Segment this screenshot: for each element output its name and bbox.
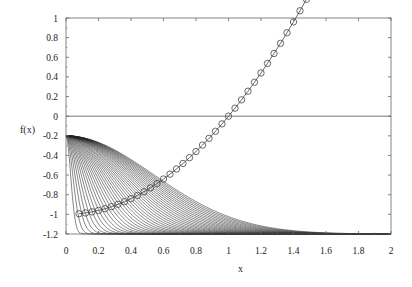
y-tick-label: -0.4 [43, 151, 58, 161]
x-tick-label: 1 [226, 246, 231, 256]
y-tick-label: 0.4 [46, 72, 58, 82]
x-tick-label: 0.4 [125, 246, 137, 256]
chart: 00.20.40.60.811.21.41.61.82 10.80.60.40.… [0, 0, 412, 287]
x-tick-label: 1.8 [353, 246, 365, 256]
x-tick-label: 0.8 [190, 246, 202, 256]
y-tick-label: -1 [50, 210, 58, 220]
x-tick-label: 1.6 [320, 246, 332, 256]
y-tick-label: -0.2 [43, 131, 58, 141]
y-tick-label: 0.8 [46, 33, 58, 43]
circle-marker [303, 0, 309, 3]
y-tick-label: 0.2 [46, 92, 58, 102]
x-axis-label: x [238, 263, 243, 274]
y-tick-label: -0.8 [43, 190, 58, 200]
y-tick-label: -0.6 [43, 171, 58, 181]
plot-frame [66, 18, 391, 234]
x-tick-label: 0.6 [158, 246, 170, 256]
x-tick-label: 2 [389, 246, 394, 256]
y-tick-label: 0.6 [46, 53, 58, 63]
curve-family [66, 136, 391, 234]
x-tick-label: 0 [64, 246, 69, 256]
x-tick-label: 1.4 [288, 246, 300, 256]
y-axis-ticks: 10.80.60.40.20-0.2-0.4-0.6-0.8-1-1.2 [43, 14, 391, 240]
y-tick-label: -1.2 [43, 230, 58, 240]
y-tick-label: 0 [53, 112, 58, 122]
y-axis-label: f(x) [20, 124, 35, 136]
x-tick-label: 1.2 [255, 246, 267, 256]
x-tick-label: 0.2 [93, 246, 105, 256]
y-tick-label: 1 [53, 14, 58, 24]
